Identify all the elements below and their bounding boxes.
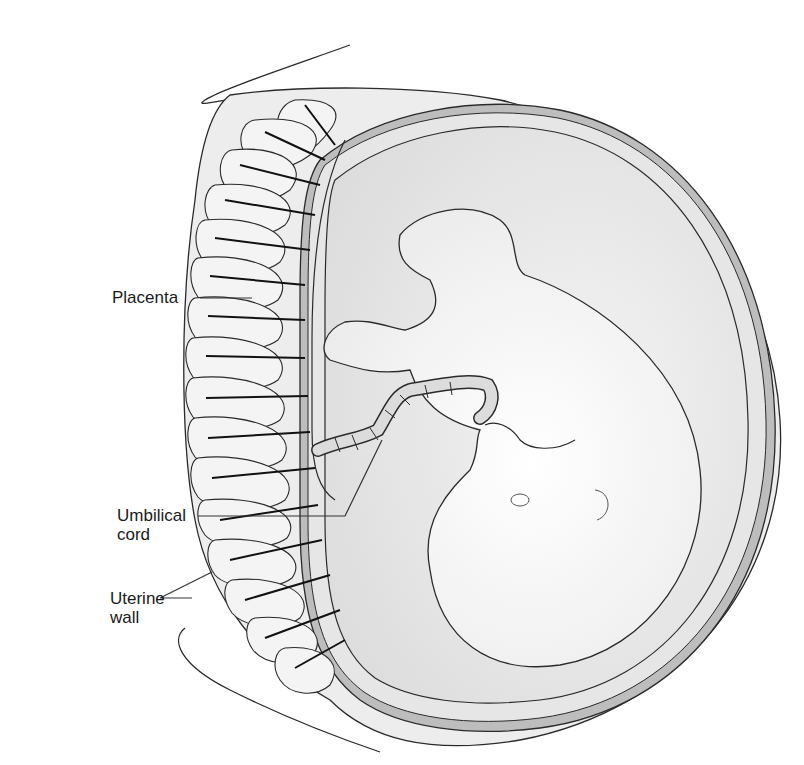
label-placenta-text: Placenta — [112, 288, 178, 307]
label-uterine-wall-line2: wall — [110, 608, 165, 627]
fetus-placenta-diagram — [0, 0, 804, 765]
label-uterine-wall: Uterine wall — [110, 589, 165, 627]
uterine-wall-leader — [160, 572, 212, 598]
label-placenta: Placenta — [112, 288, 178, 307]
label-umbilical-cord: Umbilical cord — [117, 506, 186, 544]
label-umbilical-cord-line1: Umbilical — [117, 506, 186, 525]
label-uterine-wall-line1: Uterine — [110, 589, 165, 608]
label-umbilical-cord-line2: cord — [117, 525, 186, 544]
